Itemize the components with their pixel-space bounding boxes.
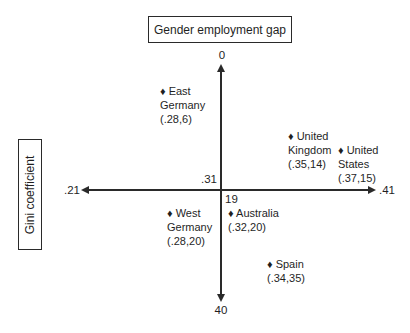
vertical-axis-line [220,70,222,296]
arrow-up-icon [217,64,225,72]
y-axis-title: Gini coefficient [23,155,37,234]
arrow-left-icon [81,186,89,194]
arrow-down-icon [217,294,225,302]
tick-x-right: .41 [379,184,395,197]
point-east-germany: ♦ East Germany (.28,6) [160,84,205,126]
tick-x-center: .31 [191,173,217,186]
scatter-figure: Gender employment gap Gini coefficient 0… [0,0,410,333]
tick-x-left: .21 [54,184,80,197]
x-axis-title: Gender employment gap [154,23,286,37]
point-west-germany: ♦ West Germany (.28,20) [167,206,212,248]
y-axis-title-box: Gini coefficient [18,139,42,250]
point-spain: ♦ Spain (.34,35) [267,257,305,285]
point-united-states: ♦ United States (.37,15) [338,143,378,185]
point-australia: ♦ Australia (.32,20) [228,206,279,234]
arrow-right-icon [368,186,376,194]
tick-y-bottom: 40 [215,304,228,317]
point-united-kingdom: ♦ United Kingdom (.35,14) [288,129,331,171]
horizontal-axis-line [88,189,370,191]
tick-y-top: 0 [219,49,225,62]
x-axis-title-box: Gender employment gap [148,16,292,43]
tick-y-center: 19 [225,193,238,206]
